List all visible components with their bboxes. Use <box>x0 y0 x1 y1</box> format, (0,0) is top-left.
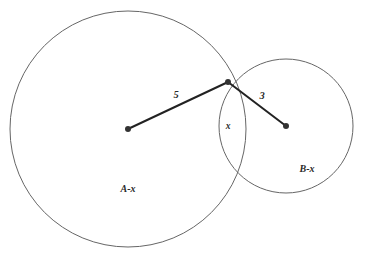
geometry-diagram: 5 3 x A-x B-x <box>0 0 366 260</box>
center-dot-a <box>125 126 131 132</box>
label-radius-b: 3 <box>258 90 264 101</box>
label-intersection-x: x <box>225 121 231 131</box>
radius-line-b <box>228 82 286 126</box>
label-region-b-minus-x: B-x <box>299 163 315 174</box>
intersection-point-dot <box>225 79 231 85</box>
label-radius-a: 5 <box>173 89 178 100</box>
center-dot-b <box>283 123 289 129</box>
label-region-a-minus-x: A-x <box>120 183 136 194</box>
diagram-canvas: 5 3 x A-x B-x <box>0 0 366 260</box>
